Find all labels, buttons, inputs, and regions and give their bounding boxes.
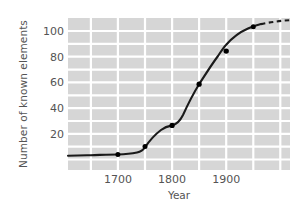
horizontal-gridlines — [68, 31, 290, 160]
y-tick-label: 40 — [24, 102, 64, 115]
y-tick-label: 20 — [24, 127, 64, 140]
x-axis-title: Year — [68, 189, 290, 201]
y-tick-label: 100 — [24, 24, 64, 37]
x-tick-label: 1900 — [196, 173, 256, 186]
data-point — [115, 152, 120, 157]
x-tick-label: 1800 — [142, 173, 202, 186]
data-point — [143, 144, 148, 149]
chart-figure: 100 80 60 40 20 1700 1800 1900 Number of… — [0, 0, 306, 214]
x-tick-label: 1700 — [88, 173, 148, 186]
y-tick-label: 60 — [24, 76, 64, 89]
extrapolation-dashed-curve — [261, 20, 292, 24]
data-point — [224, 48, 229, 53]
data-point — [170, 123, 175, 128]
y-axis-title-wrap: Number of known elements — [0, 0, 24, 190]
y-tick-label: 80 — [24, 50, 64, 63]
data-point — [251, 24, 256, 29]
data-point — [197, 82, 202, 87]
y-axis-title: Number of known elements — [17, 9, 29, 179]
